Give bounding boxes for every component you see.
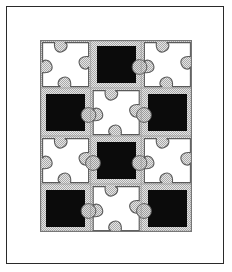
tab-icon <box>137 204 152 219</box>
dark-square <box>97 46 136 83</box>
artwork-frame <box>0 0 232 272</box>
dark-square <box>46 190 85 227</box>
tab-icon <box>137 108 152 123</box>
tab-icon <box>86 156 101 171</box>
puzzle-plate <box>40 40 192 232</box>
dark-square <box>46 94 85 131</box>
puzzle-tessellation <box>40 40 192 232</box>
dark-square <box>97 142 136 179</box>
dark-square <box>148 190 187 227</box>
dark-square <box>148 94 187 131</box>
